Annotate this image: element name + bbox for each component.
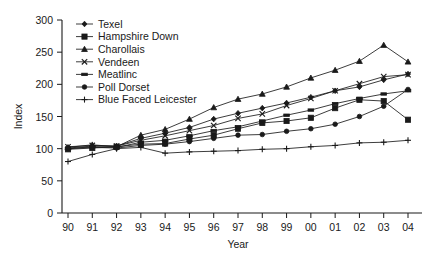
x-tick-label: 01 (329, 221, 341, 233)
data-point-marker (259, 120, 265, 122)
data-point-marker (260, 105, 265, 111)
legend-item-poll-dorset[interactable]: Poll Dorset (76, 81, 149, 93)
data-point-marker (309, 126, 314, 131)
legend-item-blue-faced-leicester[interactable]: Blue Faced Leicester (76, 93, 197, 105)
data-point-marker (333, 122, 338, 127)
x-tick-label: 04 (402, 221, 414, 233)
x-tick-label: 95 (184, 221, 196, 233)
data-point-marker (162, 126, 168, 131)
data-point-marker (236, 110, 241, 116)
data-point-marker (82, 34, 87, 39)
data-point-marker (284, 129, 289, 134)
data-point-marker (308, 109, 314, 111)
x-tick-label: 96 (208, 221, 220, 233)
data-point-marker (187, 135, 193, 137)
data-point-marker (186, 149, 192, 155)
x-tick-label: 00 (305, 221, 317, 233)
legend-label: Texel (98, 18, 123, 30)
data-point-marker (405, 117, 410, 122)
data-point-marker (235, 148, 241, 154)
data-point-marker (236, 133, 241, 138)
legend-label: Hampshire Down (98, 30, 179, 42)
y-tick-label: 0 (47, 207, 53, 219)
line-chart: 0501001502002503009091929394959697989900… (0, 0, 436, 264)
y-tick-label: 100 (35, 143, 53, 155)
chart-container: 0501001502002503009091929394959697989900… (0, 0, 436, 264)
data-point-marker (163, 142, 168, 147)
data-point-marker (381, 104, 386, 109)
x-tick-label: 92 (111, 221, 123, 233)
data-point-marker (308, 115, 313, 120)
data-point-marker (332, 142, 338, 148)
y-tick-label: 300 (35, 14, 53, 26)
legend-label: Meatlinc (98, 68, 137, 80)
x-tick-label: 02 (354, 221, 366, 233)
legend-label: Poll Dorset (98, 81, 149, 93)
x-tick-label: 97 (232, 221, 244, 233)
data-point-marker (284, 118, 289, 123)
y-tick-label: 200 (35, 78, 53, 90)
data-point-marker (259, 146, 265, 152)
data-point-marker (406, 87, 411, 92)
legend-item-hampshire-down[interactable]: Hampshire Down (76, 30, 179, 42)
data-point-marker (235, 126, 241, 128)
data-point-marker (357, 114, 362, 119)
data-point-marker (211, 116, 216, 122)
data-point-marker (308, 144, 314, 150)
y-tick-label: 150 (35, 111, 53, 123)
x-axis-title: Year (227, 238, 249, 250)
chart-axes: 0501001502002503009091929394959697989900… (12, 14, 422, 250)
y-tick-label: 250 (35, 46, 53, 58)
data-point-marker (82, 97, 88, 103)
data-point-marker (405, 59, 411, 64)
data-point-marker (187, 116, 193, 121)
data-point-marker (381, 93, 387, 95)
data-point-marker (187, 139, 192, 144)
data-point-marker (66, 146, 71, 151)
data-point-marker (162, 150, 168, 156)
series-blue-faced-leicester (65, 137, 411, 164)
legend-label: Blue Faced Leicester (98, 93, 197, 105)
data-point-marker (82, 73, 88, 75)
data-point-marker (357, 58, 363, 63)
legend-label: Vendeen (98, 56, 140, 68)
legend-label: Charollais (98, 43, 145, 55)
data-point-marker (357, 97, 363, 99)
data-point-marker (89, 151, 95, 157)
data-point-marker (333, 106, 338, 111)
data-point-marker (332, 102, 338, 104)
data-point-marker (381, 42, 387, 47)
y-axis-title: Index (12, 103, 24, 129)
x-tick-label: 91 (86, 221, 98, 233)
x-tick-label: 99 (281, 221, 293, 233)
data-point-marker (284, 114, 290, 116)
data-point-marker (82, 85, 87, 90)
legend-item-meatlinc[interactable]: Meatlinc (76, 68, 137, 80)
y-tick-label: 50 (41, 175, 53, 187)
data-point-marker (381, 139, 387, 145)
data-point-marker (82, 21, 87, 27)
data-point-marker (356, 140, 362, 146)
x-tick-label: 98 (256, 221, 268, 233)
data-point-marker (211, 129, 217, 131)
series-line (68, 100, 408, 150)
data-point-marker (90, 145, 95, 150)
legend-item-vendeen[interactable]: Vendeen (76, 56, 140, 68)
data-point-marker (211, 148, 217, 154)
x-tick-label: 03 (378, 221, 390, 233)
data-point-marker (260, 132, 265, 137)
data-point-marker (284, 146, 290, 152)
data-point-marker (381, 98, 386, 103)
chart-legend: TexelHampshire DownCharollaisVendeenMeat… (76, 18, 197, 106)
x-tick-label: 90 (62, 221, 74, 233)
legend-item-charollais[interactable]: Charollais (76, 43, 145, 55)
data-point-marker (332, 67, 338, 72)
data-point-marker (65, 159, 71, 165)
x-tick-label: 93 (135, 221, 147, 233)
legend-item-texel[interactable]: Texel (76, 18, 123, 30)
data-point-marker (162, 139, 168, 141)
data-point-marker (405, 137, 411, 143)
data-point-marker (211, 136, 216, 141)
x-tick-label: 94 (159, 221, 171, 233)
